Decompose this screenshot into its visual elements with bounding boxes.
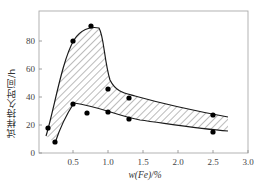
data-point <box>52 139 57 144</box>
chart-canvas: 0 20 40 60 80 0.5 1.0 1.5 2.0 2.5 3.0 w(… <box>0 0 267 189</box>
data-point <box>105 86 110 91</box>
y-tick-label: 80 <box>26 36 36 46</box>
data-point <box>84 110 89 115</box>
data-point <box>45 125 50 130</box>
y-axis-tick-labels: 0 20 40 60 80 <box>26 36 36 158</box>
data-point <box>88 23 93 28</box>
x-tick-label: 3.0 <box>242 157 254 167</box>
x-axis-tick-labels: 0.5 1.0 1.5 2.0 2.5 3.0 <box>67 157 254 167</box>
y-axis-title: 试样持久时间/h <box>6 62 18 144</box>
x-tick-label: 2.5 <box>207 157 219 167</box>
x-tick-label: 1.5 <box>137 157 149 167</box>
x-tick-label: 2.0 <box>172 157 184 167</box>
data-point <box>210 129 215 134</box>
data-point <box>210 112 215 117</box>
data-point <box>70 101 75 106</box>
data-point <box>126 95 131 100</box>
x-tick-label: 0.5 <box>67 157 79 167</box>
data-point <box>70 38 75 43</box>
x-tick-label: 1.0 <box>102 157 114 167</box>
hatched-band <box>46 28 228 144</box>
x-axis-title: w(Fe)/% <box>128 170 161 181</box>
y-tick-label: 60 <box>26 64 36 74</box>
data-point <box>105 109 110 114</box>
data-point <box>126 116 131 121</box>
y-tick-label: 0 <box>31 148 36 158</box>
y-tick-label: 20 <box>26 120 36 130</box>
y-tick-label: 40 <box>26 92 36 102</box>
